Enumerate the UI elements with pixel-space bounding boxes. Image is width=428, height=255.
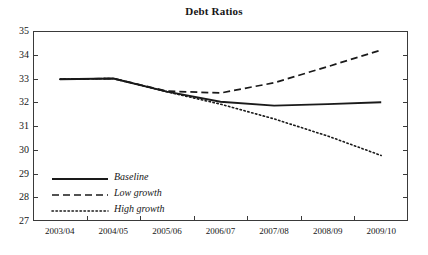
x-tick-mark (301, 216, 302, 221)
y-tick-label: 34 (19, 50, 29, 60)
y-axis-label-group: 353433323130292827 (8, 31, 29, 221)
x-tick-label: 2005/06 (152, 226, 182, 236)
x-tick-mark (247, 216, 248, 221)
x-axis-label-group: 2003/042004/052005/062006/072007/082008/… (33, 226, 408, 240)
y-tick-mark-right (403, 197, 408, 198)
series-line-low-growth (60, 50, 381, 93)
y-tick-label: 29 (19, 169, 29, 179)
y-tick-mark-left (33, 79, 38, 80)
x-tick-label: 2009/10 (366, 226, 396, 236)
y-tick-label: 33 (19, 74, 29, 84)
legend-label: Low growth (114, 187, 162, 198)
legend-item[interactable]: Low growth (52, 186, 222, 202)
y-tick-mark-left (33, 174, 38, 175)
y-tick-mark-right (403, 79, 408, 80)
series-line-high-growth (60, 79, 381, 156)
y-tick-label: 35 (19, 26, 29, 36)
page-title: Debt Ratios (0, 5, 428, 17)
x-tick-label: 2003/04 (45, 226, 75, 236)
legend-item[interactable]: Baseline (52, 170, 222, 186)
y-tick-mark-right (403, 126, 408, 127)
y-tick-label: 31 (19, 121, 29, 131)
x-tick-mark (354, 216, 355, 221)
legend-label: High growth (114, 203, 164, 214)
legend-label: Baseline (114, 171, 148, 182)
legend-line-icon (52, 193, 108, 196)
y-tick-mark-right (403, 102, 408, 103)
chart-legend: BaselineLow growthHigh growth (52, 170, 222, 218)
chart-page: Debt Ratios 353433323130292827 2003/0420… (0, 0, 428, 255)
x-tick-label: 2007/08 (259, 226, 289, 236)
y-tick-mark-right (403, 55, 408, 56)
y-tick-label: 30 (19, 145, 29, 155)
y-tick-mark-left (33, 102, 38, 103)
y-tick-label: 28 (19, 192, 29, 202)
y-tick-label: 32 (19, 97, 29, 107)
y-tick-mark-left (33, 126, 38, 127)
x-tick-label: 2004/05 (99, 226, 129, 236)
y-tick-label: 27 (19, 216, 29, 226)
x-tick-label: 2008/09 (313, 226, 343, 236)
x-tick-label: 2006/07 (206, 226, 236, 236)
y-tick-mark-right (403, 150, 408, 151)
legend-line-icon (52, 209, 108, 212)
legend-item[interactable]: High growth (52, 202, 222, 218)
y-tick-mark-left (33, 150, 38, 151)
legend-line-icon (52, 177, 108, 180)
y-tick-mark-left (33, 197, 38, 198)
series-line-baseline (60, 79, 381, 106)
y-tick-mark-left (33, 55, 38, 56)
y-tick-mark-right (403, 174, 408, 175)
